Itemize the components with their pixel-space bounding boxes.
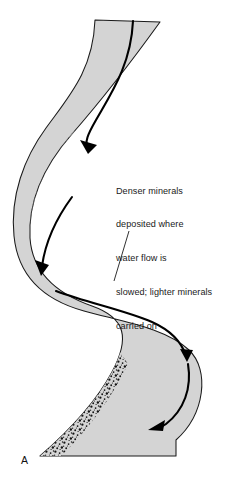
panel-label-a: A xyxy=(21,454,28,467)
annotation-line-4: slowed; lighter minerals xyxy=(116,287,240,298)
flow-line-segment-2 xyxy=(42,197,72,266)
flow-arrowhead-1 xyxy=(80,140,97,154)
annotation-line-2: deposited where xyxy=(116,219,240,230)
annotation-line-3: water flow is xyxy=(116,253,240,264)
annotation-line-5: carried on xyxy=(116,321,240,332)
annotation-line-1: Denser minerals xyxy=(116,186,240,197)
figure-panel-a: Denser minerals deposited where water fl… xyxy=(0,0,240,493)
deposit-annotation-label: Denser minerals deposited where water fl… xyxy=(116,163,240,355)
